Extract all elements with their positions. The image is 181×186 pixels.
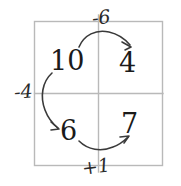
diagram-canvas: 10 4 6 7 -6 -4 +1	[0, 0, 181, 186]
cell-value-bottom-right: 7	[121, 110, 138, 137]
arrow-left-head	[51, 122, 59, 130]
operation-label-bottom: +1	[81, 155, 111, 178]
grid-box	[35, 15, 164, 172]
arrow-left-curve	[42, 73, 58, 128]
cell-value-top-left: 10	[50, 47, 84, 74]
cell-value-top-right: 4	[119, 49, 136, 76]
cell-value-bottom-left: 6	[60, 117, 77, 144]
operation-label-left: -4	[13, 81, 33, 101]
operation-label-top: -6	[91, 7, 111, 28]
arrow-top-curve	[79, 31, 130, 47]
arrow-top-left-to-bottom-left	[42, 73, 59, 130]
